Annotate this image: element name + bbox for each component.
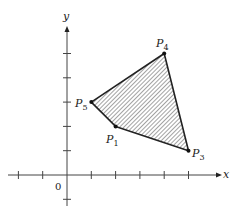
point-subscript: 1 <box>113 139 118 148</box>
coordinate-diagram: x y 0 P1 P3 P4 <box>0 0 236 213</box>
point-subscript: 4 <box>163 43 168 52</box>
vertex-p1: P1 <box>105 124 119 148</box>
vertex-p3: P3 <box>187 147 205 162</box>
point-subscript: 3 <box>199 153 204 162</box>
svg-text:P4: P4 <box>155 37 169 52</box>
point-dot-icon <box>162 52 166 56</box>
x-axis-label: x <box>223 168 230 181</box>
point-dot-icon <box>114 124 118 128</box>
point-dot-icon <box>187 149 191 153</box>
svg-text:P5: P5 <box>74 97 88 112</box>
vertex-p4: P4 <box>155 37 169 56</box>
svg-text:P3: P3 <box>191 147 205 162</box>
point-dot-icon <box>89 100 93 104</box>
y-axis: y <box>62 10 71 206</box>
x-axis-arrow-icon <box>216 173 222 178</box>
point-subscript: 5 <box>82 103 87 112</box>
svg-text:P1: P1 <box>105 133 119 148</box>
y-axis-label: y <box>62 10 70 23</box>
origin-label: 0 <box>55 181 61 192</box>
vertex-p5: P5 <box>74 97 93 112</box>
x-axis: x <box>8 168 230 181</box>
y-axis-arrow-icon <box>65 26 70 32</box>
